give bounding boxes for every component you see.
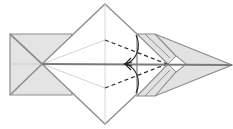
- origami-diagram: [0, 0, 233, 129]
- origami-figure: [0, 0, 233, 129]
- center-line: [42, 64, 232, 65]
